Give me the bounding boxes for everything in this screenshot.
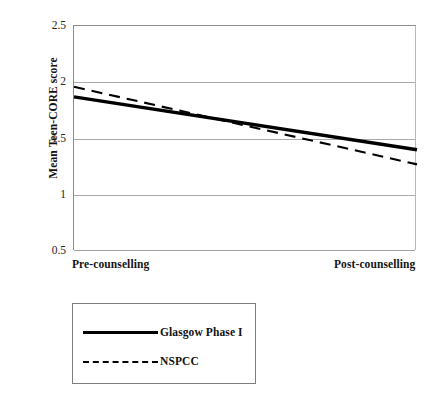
- series-line-glasgow-phase-i: [74, 97, 417, 150]
- y-axis-title: Mean Teen-CORE score: [47, 23, 59, 213]
- legend-label-nspcc: NSPCC: [160, 355, 199, 367]
- y-tick-label-2.5: 2.5: [28, 19, 66, 31]
- legend-swatch-dashed-line-icon: [83, 356, 158, 366]
- y-tick-label-1.5: 1.5: [28, 132, 66, 144]
- y-tick-label-2: 2: [28, 75, 66, 87]
- x-axis-label-pre-counselling: Pre-counselling: [72, 258, 149, 270]
- x-axis-label-post-counselling: Post-counselling: [334, 258, 415, 270]
- chart-legend: Glasgow Phase I NSPCC: [72, 303, 256, 384]
- y-tick-label-0.5: 0.5: [28, 244, 66, 256]
- legend-swatch-solid-line-icon: [83, 327, 158, 337]
- legend-label-glasgow-phase-i: Glasgow Phase I: [160, 326, 243, 338]
- legend-item-nspcc: NSPCC: [73, 352, 255, 370]
- y-tick-label-1: 1: [28, 188, 66, 200]
- series-line-nspcc: [74, 87, 417, 165]
- series-layer: [74, 26, 417, 251]
- plot-area: [73, 25, 416, 250]
- legend-item-glasgow-phase-i: Glasgow Phase I: [73, 323, 255, 341]
- chart-figure: Mean Teen-CORE score 2.5 2 1.5 1 0.5 Pre…: [0, 0, 441, 404]
